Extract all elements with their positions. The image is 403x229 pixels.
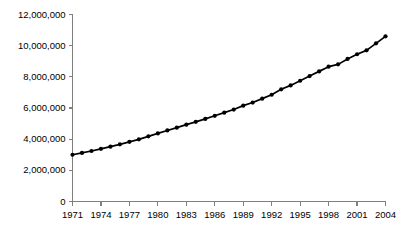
data-point-marker: [317, 69, 321, 73]
data-point-marker: [80, 151, 84, 155]
data-point-marker: [108, 145, 112, 149]
data-point-marker: [241, 104, 245, 108]
data-point-marker: [127, 140, 131, 144]
data-point-marker: [203, 117, 207, 121]
data-point-marker: [260, 97, 264, 101]
data-point-marker: [175, 126, 179, 130]
data-point-marker: [383, 34, 387, 38]
x-tick-label: 1971: [62, 209, 83, 220]
data-point-marker: [374, 41, 378, 45]
data-point-marker: [213, 114, 217, 118]
x-tick-label: 1998: [318, 209, 339, 220]
data-point-marker: [270, 93, 274, 97]
x-axis-tick-labels: 1971197419771980198319861989199219951998…: [62, 209, 396, 220]
data-point-marker: [156, 131, 160, 135]
x-tick-label: 2004: [375, 209, 396, 220]
data-series: [73, 36, 386, 154]
x-tick-label: 1977: [119, 209, 140, 220]
chart-container: 02,000,0004,000,0006,000,0008,000,00010,…: [0, 0, 403, 229]
data-point-marker: [89, 149, 93, 153]
data-point-marker: [308, 74, 312, 78]
data-point-marker: [336, 62, 340, 66]
y-tick-label: 4,000,000: [23, 133, 65, 144]
data-point-marker: [326, 65, 330, 69]
data-point-marker: [194, 120, 198, 124]
data-point-marker: [146, 134, 150, 138]
x-tick-label: 1989: [233, 209, 254, 220]
y-tick-label: 8,000,000: [23, 71, 65, 82]
y-tick-label: 2,000,000: [23, 164, 65, 175]
y-tick-label: 10,000,000: [18, 40, 66, 51]
series-line: [73, 36, 386, 154]
data-point-marker: [279, 87, 283, 91]
data-point-markers: [70, 34, 387, 157]
x-tick-label: 1980: [147, 209, 168, 220]
x-tick-label: 1983: [176, 209, 197, 220]
line-chart: 02,000,0004,000,0006,000,0008,000,00010,…: [0, 0, 403, 229]
x-tick-label: 2001: [346, 209, 367, 220]
y-tick-label: 12,000,000: [18, 9, 66, 20]
data-point-marker: [345, 57, 349, 61]
data-point-marker: [364, 48, 368, 52]
x-tick-label: 1986: [204, 209, 225, 220]
y-axis: [69, 15, 73, 202]
data-point-marker: [298, 79, 302, 83]
data-point-marker: [165, 128, 169, 132]
y-axis-tick-labels: 02,000,0004,000,0006,000,0008,000,00010,…: [18, 9, 66, 207]
x-tick-label: 1974: [90, 209, 111, 220]
data-point-marker: [184, 123, 188, 127]
data-point-marker: [289, 83, 293, 87]
data-point-marker: [118, 142, 122, 146]
data-point-marker: [99, 147, 103, 151]
data-point-marker: [251, 100, 255, 104]
data-point-marker: [355, 52, 359, 56]
data-point-marker: [137, 137, 141, 141]
data-point-marker: [70, 153, 74, 157]
data-point-marker: [232, 107, 236, 111]
y-tick-label: 0: [60, 196, 65, 207]
x-tick-label: 1995: [290, 209, 311, 220]
y-tick-label: 6,000,000: [23, 102, 65, 113]
x-axis: [73, 202, 386, 206]
x-tick-label: 1992: [261, 209, 282, 220]
data-point-marker: [222, 111, 226, 115]
